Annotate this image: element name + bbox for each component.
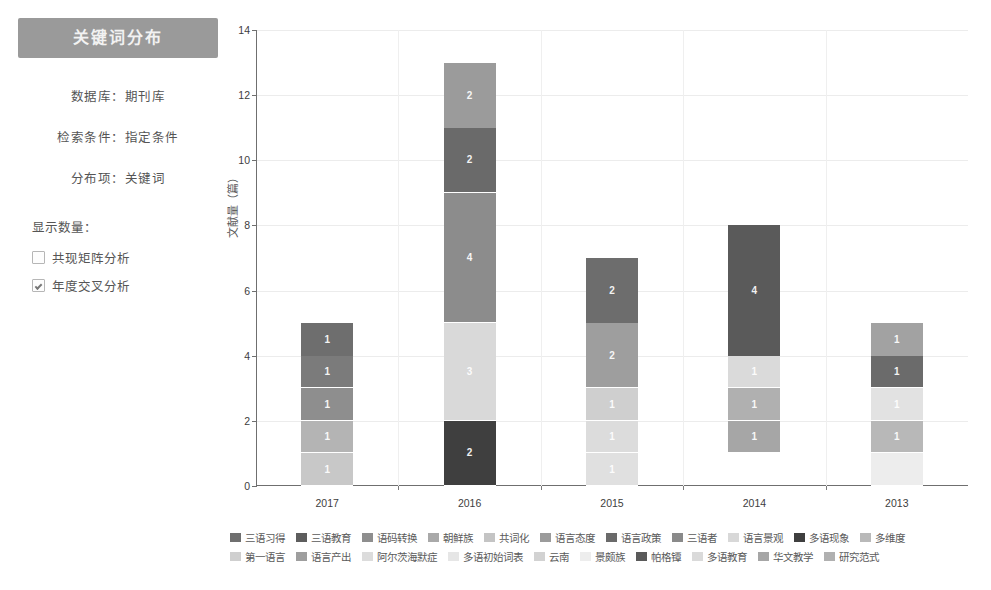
legend-item[interactable]: 语言态度 [540, 528, 595, 547]
legend-item[interactable]: 朝鲜族 [428, 528, 473, 547]
bar-segment[interactable]: 1 [728, 388, 780, 421]
legend-swatch [362, 552, 373, 561]
bar-2017[interactable]: 11111 [301, 323, 353, 486]
bar-segment-value: 1 [324, 334, 330, 345]
keyword-distribution-panel: 关键词分布 数据库：期刊库 检索条件：指定条件 分布项：关键词 显示数量： 共现… [18, 18, 218, 304]
checkbox-annual-cross-analysis[interactable] [32, 279, 45, 292]
legend-item[interactable]: 景颇族 [580, 547, 625, 566]
legend-label: 语言政策 [621, 530, 661, 545]
bar-segment-value: 2 [609, 285, 615, 296]
legend-label: 朝鲜族 [443, 530, 473, 545]
x-tick-label: 2015 [600, 497, 623, 509]
legend-item[interactable]: 语言景观 [728, 528, 783, 547]
y-tick-label: 2 [226, 415, 250, 427]
bar-segment-value: 1 [324, 366, 330, 377]
bar-segment[interactable]: 1 [728, 421, 780, 454]
y-tick-mark [252, 30, 257, 31]
legend-item[interactable]: 多维度 [860, 528, 905, 547]
stacked-bar-chart: 文献量（篇） 024681012141111120172342220161112… [224, 16, 976, 528]
bar-segment[interactable]: 2 [444, 421, 496, 486]
legend-item[interactable]: 多语教育 [692, 547, 747, 566]
bar-segment-value: 1 [752, 431, 758, 442]
y-tick-mark [252, 160, 257, 161]
legend-item[interactable]: 帕格镡 [636, 547, 681, 566]
meta-search-condition: 检索条件：指定条件 [18, 127, 218, 146]
legend-swatch [580, 552, 591, 561]
y-tick-label: 6 [226, 285, 250, 297]
option-cooccurrence-matrix[interactable]: 共现矩阵分析 [32, 248, 218, 267]
bar-segment[interactable]: 1 [871, 388, 923, 421]
category-gridline [398, 30, 399, 486]
bar-segment[interactable]: 1 [301, 356, 353, 389]
legend-item[interactable]: 语言产出 [296, 547, 351, 566]
legend-item[interactable]: 云南 [534, 547, 569, 566]
legend-label: 华文教学 [773, 549, 813, 564]
bar-segment[interactable]: 1 [871, 356, 923, 389]
chart-legend: 三语习得三语教育语码转换朝鲜族共词化语言态度语言政策三语者语言景观多语现象多维度… [230, 528, 972, 566]
y-tick-mark [252, 421, 257, 422]
meta-distribution-item: 分布项：关键词 [18, 168, 218, 187]
bar-segment[interactable]: 4 [728, 225, 780, 355]
bar-segment[interactable]: 2 [586, 323, 638, 388]
legend-item[interactable]: 华文教学 [758, 547, 813, 566]
bar-segment-value: 1 [752, 399, 758, 410]
legend-item[interactable]: 三语者 [672, 528, 717, 547]
bar-segment-value: 1 [894, 431, 900, 442]
bar-segment[interactable]: 2 [444, 63, 496, 128]
checkbox-cooccurrence-matrix[interactable] [32, 251, 45, 264]
legend-swatch [230, 533, 241, 542]
legend-item[interactable]: 共词化 [484, 528, 529, 547]
legend-item[interactable]: 阿尔茨海默症 [362, 547, 437, 566]
legend-item[interactable]: 第一语言 [230, 547, 285, 566]
legend-item[interactable]: 研究范式 [824, 547, 879, 566]
bar-2016[interactable]: 23422 [444, 63, 496, 486]
bar-segment[interactable]: 1 [301, 323, 353, 356]
legend-label: 云南 [549, 549, 569, 564]
bar-segment[interactable]: 1 [728, 356, 780, 389]
bar-segment[interactable] [871, 453, 923, 486]
legend-item[interactable]: 三语习得 [230, 528, 285, 547]
legend-item[interactable]: 三语教育 [296, 528, 351, 547]
legend-label: 研究范式 [839, 549, 879, 564]
legend-label: 共词化 [499, 530, 529, 545]
bar-segment-value: 2 [609, 350, 615, 361]
bar-segment[interactable]: 1 [301, 388, 353, 421]
bar-segment[interactable]: 3 [444, 323, 496, 421]
legend-label: 帕格镡 [651, 549, 681, 564]
bar-segment-value: 1 [609, 399, 615, 410]
x-tick-mark [541, 486, 542, 490]
bar-segment[interactable]: 1 [871, 323, 923, 356]
bar-2013[interactable]: 1111 [871, 323, 923, 486]
bar-2015[interactable]: 11122 [586, 258, 638, 486]
x-tick-label: 2014 [743, 497, 766, 509]
y-tick-label: 4 [226, 350, 250, 362]
bar-segment[interactable]: 1 [301, 453, 353, 486]
gridline [256, 30, 968, 31]
legend-label: 多语现象 [809, 530, 849, 545]
bar-segment[interactable]: 2 [586, 258, 638, 323]
bar-segment[interactable]: 1 [586, 453, 638, 486]
legend-item[interactable]: 语码转换 [362, 528, 417, 547]
bar-segment[interactable]: 1 [871, 421, 923, 454]
legend-item[interactable]: 语言政策 [606, 528, 661, 547]
legend-swatch [606, 533, 617, 542]
bar-segment[interactable]: 1 [586, 421, 638, 454]
legend-item[interactable]: 多语初始词表 [448, 547, 523, 566]
bar-2014[interactable]: 1114 [728, 225, 780, 453]
y-tick-label: 12 [226, 89, 250, 101]
option-annual-cross-analysis[interactable]: 年度交叉分析 [32, 276, 218, 295]
legend-label: 三语者 [687, 530, 717, 545]
legend-item[interactable]: 多语现象 [794, 528, 849, 547]
bar-segment[interactable]: 1 [586, 388, 638, 421]
legend-label: 语码转换 [377, 530, 417, 545]
bar-segment[interactable]: 4 [444, 193, 496, 323]
legend-swatch [636, 552, 647, 561]
legend-swatch [230, 552, 241, 561]
bar-segment[interactable]: 2 [444, 128, 496, 193]
bar-segment[interactable]: 1 [301, 421, 353, 454]
gridline [256, 95, 968, 96]
bar-segment-value: 1 [609, 464, 615, 475]
legend-swatch [448, 552, 459, 561]
x-tick-label: 2017 [316, 497, 339, 509]
option-label-cooccurrence-matrix: 共现矩阵分析 [52, 248, 130, 267]
